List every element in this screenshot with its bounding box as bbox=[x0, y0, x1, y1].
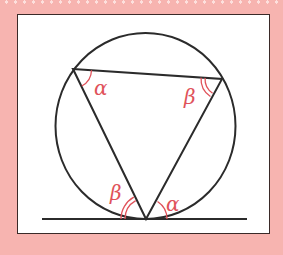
label-beta-top: β bbox=[183, 85, 196, 109]
angle-arc-alpha-top bbox=[82, 70, 92, 86]
angle-arc-beta-top-1 bbox=[205, 78, 213, 93]
label-alpha-top: α bbox=[94, 76, 108, 100]
circle bbox=[56, 33, 236, 219]
label-beta-bottom: β bbox=[109, 181, 122, 205]
geometry-diagram: α β β α bbox=[0, 0, 283, 255]
label-alpha-bottom: α bbox=[166, 192, 180, 216]
